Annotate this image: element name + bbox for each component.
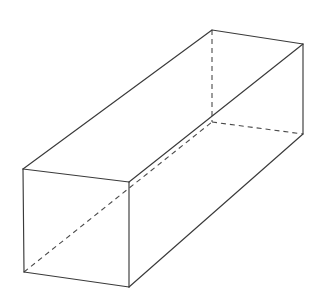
figure-canvas	[0, 0, 311, 294]
front-face	[23, 169, 129, 287]
box-faces	[23, 30, 303, 287]
rectangular-box-wireframe	[0, 0, 311, 294]
